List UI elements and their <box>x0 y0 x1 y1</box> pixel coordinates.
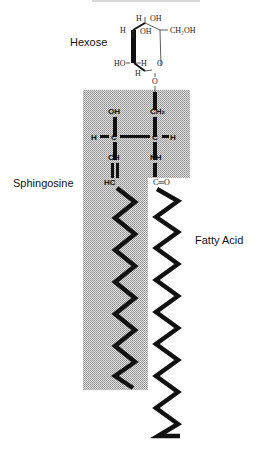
hexose-ho-left: HO <box>114 59 126 68</box>
fatty-acid-label: Fatty Acid <box>195 234 243 246</box>
hexose-ch2oh: CH₂OH <box>170 26 196 35</box>
ceramide-ch2: CH₂ <box>150 107 166 116</box>
hexose-label: Hexose <box>70 36 107 48</box>
hexose-h-bottom: H <box>135 69 141 78</box>
backbone-c-right: C <box>152 133 158 142</box>
glycosphingolipid-structure: H OH H OH CH₂OH HO H H O O OH CH₂ H C C … <box>0 0 256 451</box>
hexose-oh-top: OH <box>150 14 162 23</box>
backbone-h-left: H <box>91 133 97 142</box>
sphingosine-ch: CH <box>108 153 120 162</box>
sphingosine-oh: OH <box>108 107 120 116</box>
hexose-h-left: H <box>120 26 126 35</box>
backbone-c-left: C <box>111 133 117 142</box>
cropped-title-remnant <box>92 0 200 2</box>
backbone-h-right: H <box>170 133 176 142</box>
glycosidic-oxygen: O <box>152 77 158 86</box>
hexose-oh-inner: OH <box>140 27 152 36</box>
hexose-h-top: H <box>136 14 142 23</box>
hexose-h-inner: H <box>141 59 147 68</box>
fatty-acid-hydrocarbon-chain <box>156 189 180 436</box>
sphingosine-label: Sphingosine <box>13 177 74 189</box>
amide-nh: NH <box>150 153 162 162</box>
sphingosine-hc: HC <box>104 178 116 187</box>
hexose-ring-oxygen: O <box>157 59 163 68</box>
amide-carbonyl: C═O <box>153 178 170 187</box>
